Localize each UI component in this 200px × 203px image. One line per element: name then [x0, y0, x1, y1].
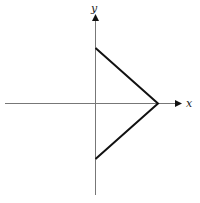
- y-axis-label: y: [90, 2, 98, 15]
- y-axis-arrow-icon: [92, 14, 99, 21]
- x-axis-label: x: [186, 97, 193, 110]
- diagram-canvas: x y: [0, 0, 200, 203]
- x-axis-arrow-icon: [175, 100, 182, 107]
- coordinate-diagram: x y: [0, 0, 200, 203]
